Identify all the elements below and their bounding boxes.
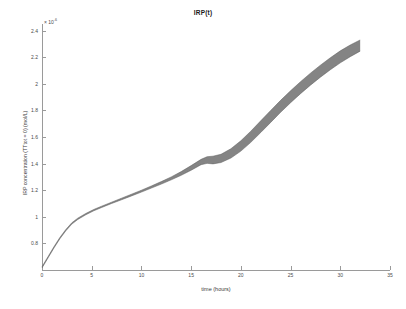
y-axis-label: IRP concentration (TTtot = 0) (mol/L)	[22, 68, 28, 238]
chart-figure: IRP(t) × 10-6 0.811.21.41.61.822.22.4 05…	[0, 0, 406, 309]
x-axis-label: time (hours)	[42, 286, 390, 292]
chart-plot-svg	[0, 0, 406, 309]
uncertainty-band	[42, 40, 360, 268]
